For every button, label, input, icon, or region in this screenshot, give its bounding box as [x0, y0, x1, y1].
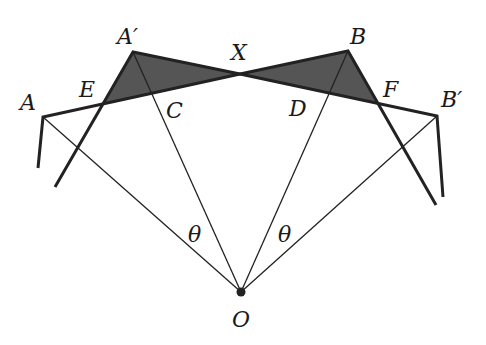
label-A: A — [18, 90, 36, 115]
label-B-prime: B′ — [440, 87, 462, 112]
ray-OA — [43, 117, 241, 292]
label-theta-left: θ — [188, 222, 201, 247]
center-point-O — [237, 288, 246, 297]
ray-OA-prime — [133, 52, 241, 292]
label-C: C — [166, 98, 183, 123]
label-B: B — [349, 24, 366, 49]
label-theta-right: θ — [278, 222, 291, 247]
label-F: F — [382, 77, 399, 102]
label-A-prime: A′ — [115, 24, 138, 49]
label-D: D — [288, 96, 307, 121]
label-O: O — [232, 307, 250, 332]
ray-OB-prime — [241, 116, 437, 292]
geometry-diagram: A A′ E C X B D F B′ θ θ O — [0, 0, 486, 345]
label-E: E — [78, 77, 95, 102]
label-X: X — [229, 40, 248, 65]
